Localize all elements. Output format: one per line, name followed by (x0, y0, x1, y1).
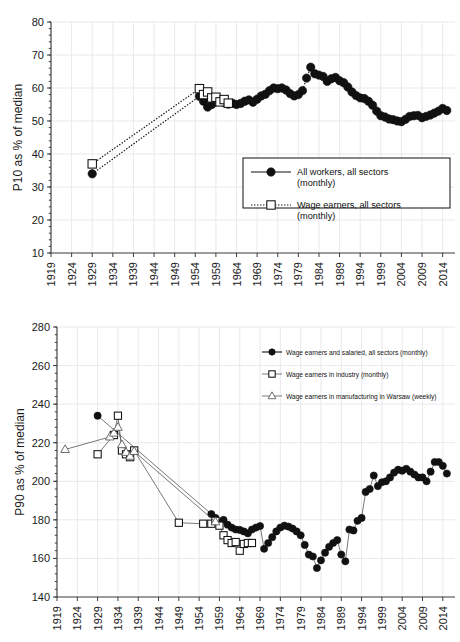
data-point-filled-circle (366, 485, 373, 492)
x-tick-label: 1999 (375, 262, 387, 286)
x-tick-label: 1969 (254, 606, 266, 630)
x-tick-label: 1974 (272, 262, 284, 286)
data-point-filled-circle (334, 537, 341, 544)
data-point-filled-circle (338, 551, 345, 558)
data-point-filled-circle (427, 468, 434, 475)
y-tick-label: 140 (32, 591, 50, 603)
data-point-open-square (88, 160, 96, 168)
data-point-filled-circle (301, 541, 308, 548)
x-tick-label: 1969 (251, 262, 263, 286)
x-tick-label: 1954 (189, 262, 201, 286)
y-tick-label: 20 (32, 214, 44, 226)
legend-label: All workers, all sectors (297, 167, 389, 177)
x-tick-label: 1934 (107, 262, 119, 286)
x-tick-label: 1964 (231, 262, 243, 286)
x-tick-label: 2014 (437, 606, 449, 630)
data-point-filled-circle (269, 349, 275, 355)
chart-p10-svg: 1020304050607080191919241929193419391944… (0, 0, 460, 320)
y-tick-label: 280 (32, 321, 50, 333)
y-tick-label: 260 (32, 360, 50, 372)
x-tick-label: 1944 (153, 606, 165, 630)
data-point-open-square (248, 539, 255, 546)
x-tick-label: 1989 (335, 606, 347, 630)
x-tick-label: 1949 (173, 606, 185, 630)
x-tick-label: 1924 (71, 606, 83, 630)
y-tick-label: 30 (32, 181, 44, 193)
x-tick-label: 1994 (356, 606, 368, 630)
data-point-open-triangle (118, 440, 127, 448)
data-point-open-triangle (268, 392, 276, 399)
legend-label: (monthly) (297, 211, 335, 221)
data-point-open-square (175, 519, 182, 526)
data-point-filled-circle (256, 522, 263, 529)
y-tick-label: 60 (32, 82, 44, 94)
series-line (98, 416, 447, 568)
x-tick-label: 1934 (112, 606, 124, 630)
data-point-filled-circle (88, 170, 96, 178)
chart-p90-svg: 1401601802002202402602801919192419291934… (0, 320, 460, 642)
data-point-filled-circle (423, 478, 430, 485)
data-point-filled-circle (94, 412, 101, 419)
x-tick-label: 1984 (315, 606, 327, 630)
chart-p10: 1020304050607080191919241929193419391944… (0, 0, 460, 320)
data-point-filled-circle (313, 564, 320, 571)
y-tick-label: 10 (32, 247, 44, 259)
x-tick-label: 1924 (66, 262, 78, 286)
data-point-open-square (267, 201, 275, 209)
y-tick-label: 160 (32, 552, 50, 564)
y-tick-label: 200 (32, 475, 50, 487)
legend-label: Wage earners and salaried, all sectors (… (286, 349, 428, 357)
y-tick-label: 70 (32, 49, 44, 61)
x-tick-label: 1929 (86, 262, 98, 286)
x-tick-label: 1929 (92, 606, 104, 630)
x-tick-label: 2014 (437, 262, 449, 286)
data-point-open-square (269, 371, 275, 377)
chart-p90: 1401601802002202402602801919192419291934… (0, 320, 460, 642)
data-point-filled-circle (350, 527, 357, 534)
y-tick-label: 180 (32, 514, 50, 526)
x-tick-label: 1954 (193, 606, 205, 630)
data-point-filled-circle (439, 462, 446, 469)
data-point-open-square (114, 412, 121, 419)
x-tick-label: 2004 (396, 606, 408, 630)
x-tick-label: 1984 (313, 262, 325, 286)
x-tick-label: 1944 (148, 262, 160, 286)
x-tick-label: 1999 (376, 606, 388, 630)
data-point-filled-circle (298, 86, 306, 94)
data-point-open-square (200, 520, 207, 527)
data-point-filled-circle (443, 106, 451, 114)
x-tick-label: 1974 (274, 606, 286, 630)
legend-label: (monthly) (297, 178, 335, 188)
y-tick-label: 40 (32, 148, 44, 160)
legend-label: Wage earners in industry (monthly) (286, 371, 388, 379)
data-point-open-square (236, 547, 243, 554)
legend-label: Wage earners in manufacturing in Warsaw … (286, 393, 437, 401)
x-tick-label: 1989 (334, 262, 346, 286)
data-point-open-square (224, 99, 232, 107)
data-point-open-square (232, 538, 239, 545)
x-tick-label: 1959 (213, 606, 225, 630)
data-point-filled-circle (358, 514, 365, 521)
x-tick-label: 1979 (292, 262, 304, 286)
data-point-filled-circle (302, 74, 310, 82)
x-tick-label: 1964 (234, 606, 246, 630)
y-axis-title: P10 as % of median (11, 84, 25, 191)
y-tick-label: 80 (32, 16, 44, 28)
x-tick-label: 1994 (354, 262, 366, 286)
x-tick-label: 1979 (295, 606, 307, 630)
data-point-filled-circle (297, 532, 304, 539)
x-tick-label: 2009 (416, 262, 428, 286)
legend-label: Wage earners, all sectors (297, 200, 401, 210)
x-tick-label: 1959 (210, 262, 222, 286)
data-point-filled-circle (309, 553, 316, 560)
x-tick-label: 2009 (417, 606, 429, 630)
series-line (65, 427, 215, 521)
y-tick-label: 220 (32, 437, 50, 449)
x-tick-label: 1919 (51, 606, 63, 630)
x-tick-label: 2004 (395, 262, 407, 286)
data-point-filled-circle (342, 558, 349, 565)
x-tick-label: 1939 (132, 606, 144, 630)
data-point-filled-circle (267, 168, 275, 176)
data-point-open-triangle (114, 423, 123, 431)
x-tick-label: 1949 (169, 262, 181, 286)
